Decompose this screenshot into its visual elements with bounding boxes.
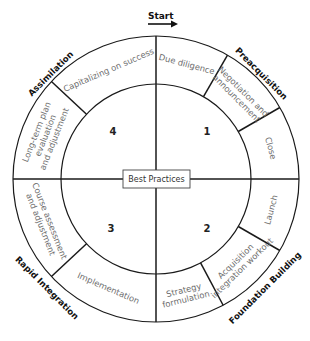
step-segment: Capitalizing on success	[62, 46, 155, 94]
quadrant-number: 1	[204, 126, 211, 137]
start-label: Start	[148, 11, 174, 21]
step-segment: Long-term planevaluationand adjustment	[20, 99, 71, 172]
best-practices-cycle-diagram: Due diligenceNegotiation andannouncement…	[0, 0, 310, 341]
center-block: Best Practices	[123, 170, 190, 188]
quadrant-number: 4	[110, 126, 117, 137]
cycle-diagram-svg: Due diligenceNegotiation andannouncement…	[0, 0, 310, 341]
step-segment: Due diligence	[158, 52, 216, 77]
step-segment: Strategyformulation	[159, 279, 211, 310]
arrow-right-icon	[171, 21, 178, 28]
step-label: Capitalizing on success	[62, 46, 155, 94]
start-indicator: Start	[148, 11, 178, 28]
quadrant-number: 2	[204, 223, 211, 234]
step-segment: Implementation	[76, 270, 141, 306]
center-label: Best Practices	[128, 175, 184, 184]
step-label: Due diligence	[158, 52, 216, 77]
step-segment: Launch	[262, 194, 280, 226]
step-segment: Close	[263, 136, 279, 161]
step-label: Launch	[262, 194, 280, 226]
phase-label: Rapid Integration	[13, 254, 80, 321]
step-label: Close	[263, 136, 279, 161]
step-label: Implementation	[76, 270, 141, 306]
quadrant-number: 3	[108, 223, 115, 234]
